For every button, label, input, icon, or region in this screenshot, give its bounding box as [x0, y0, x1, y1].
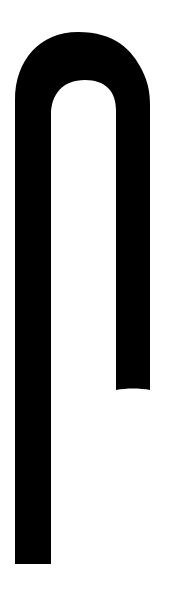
hook-shape — [15, 32, 150, 564]
hook-shape-canvas — [0, 0, 171, 594]
